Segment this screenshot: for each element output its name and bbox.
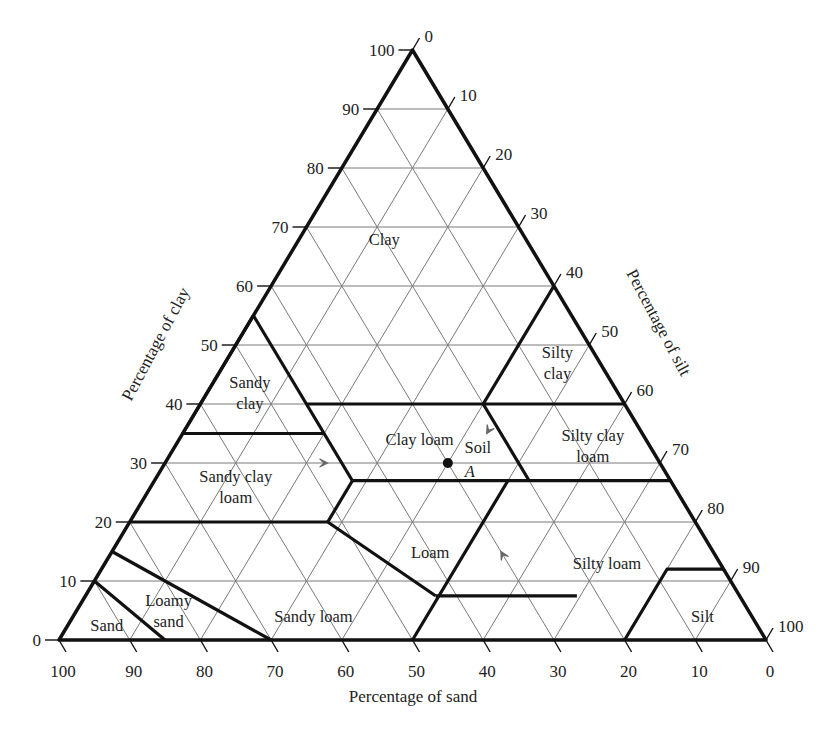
clay-axis-label: Percentage of clay [118,284,194,404]
silt-tick [660,451,667,463]
region-label-silty-clay: Silty [542,343,574,362]
region-label-loam: Loam [411,543,450,562]
arrow-icon [487,425,495,434]
sand-tick-label: 100 [50,662,76,681]
silt-tick [731,569,738,581]
clay-tick-label: 100 [369,41,395,60]
soil-point-label: Soil [465,438,492,457]
silt-tick-label: 60 [637,381,654,400]
silt-tick-label: 100 [778,617,804,636]
silt-tick [695,510,702,522]
sand-tick-label: 80 [196,662,213,681]
sand-tick-label: 50 [408,662,425,681]
clay-tick-label: 70 [271,218,288,237]
sand-tick [483,640,490,652]
silt-tick-label: 10 [460,86,477,105]
silt-tick-label: 20 [495,145,512,164]
silt-axis-label: Percentage of silt [622,266,694,379]
sand-tick [695,640,702,652]
sand-tick [766,640,773,652]
silt-tick [554,274,561,286]
sand-tick [342,640,349,652]
silt-tick-label: 70 [672,440,689,459]
region-label-silty-clay-loam: Silty clay [561,426,625,445]
soil-texture-triangle: 0001010102020203030304040405050506060607… [0,0,837,733]
sand-tick [625,640,632,652]
silt-tick [625,392,632,404]
silt-tick-label: 90 [743,558,760,577]
clay-tick-label: 10 [59,572,76,591]
sand-tick [130,640,137,652]
region-label-silty-clay: clay [544,364,572,383]
region-label-clay: Clay [369,230,401,249]
sand-axis-label: Percentage of sand [349,687,478,706]
grid-line-silt [554,463,660,640]
sand-tick-label: 20 [620,662,637,681]
sand-tick [271,640,278,652]
clay-tick-label: 20 [95,513,112,532]
silt-tick-label: 80 [707,499,724,518]
region-boundary [328,481,353,522]
region-boundary [253,316,352,481]
region-label-sandy-clay: clay [236,394,264,413]
clay-tick-label: 30 [130,454,147,473]
region-label-loamy-sand: Loamy [145,591,192,610]
silt-tick [413,38,420,50]
region-label-silt: Silt [691,607,714,626]
clay-tick-label: 80 [307,159,324,178]
silt-tick [483,156,490,168]
region-label-loamy-sand: sand [153,612,184,631]
sand-tick-label: 40 [479,662,496,681]
region-label-sandy-loam: Sandy loam [274,607,353,626]
silt-tick-label: 0 [425,27,434,46]
sand-tick [554,640,561,652]
silt-tick [766,628,773,640]
region-label-silty-clay-loam: loam [576,447,609,466]
sand-tick [59,640,66,652]
region-label-sand: Sand [90,616,124,635]
region-label-sandy-clay-loam: Sandy clay [199,467,273,486]
sand-tick-label: 60 [337,662,354,681]
sand-tick-label: 90 [125,662,142,681]
silt-tick-label: 50 [601,322,618,341]
silt-tick [448,97,455,109]
silt-tick-label: 30 [531,204,548,223]
sand-tick-label: 10 [691,662,708,681]
sand-tick-label: 0 [766,662,775,681]
silt-tick [589,333,596,345]
region-label-sandy-clay: Sandy [229,373,271,392]
arrow-icon [501,552,509,561]
region-label-clay-loam: Clay loam [385,430,453,449]
silt-tick-label: 40 [566,263,583,282]
soil-point-id: A [464,462,476,481]
sand-tick-label: 70 [267,662,284,681]
region-label-silty-loam: Silty loam [573,554,641,573]
clay-tick-label: 40 [165,395,182,414]
clay-tick-label: 60 [236,277,253,296]
sand-tick [200,640,207,652]
clay-tick-label: 90 [342,100,359,119]
clay-tick-label: 0 [33,631,42,650]
sand-tick-label: 30 [549,662,566,681]
clay-tick-label: 50 [201,336,218,355]
region-label-sandy-clay-loam: loam [219,488,252,507]
soil-point-marker [443,458,453,468]
sand-tick [413,640,420,652]
silt-tick [519,215,526,227]
